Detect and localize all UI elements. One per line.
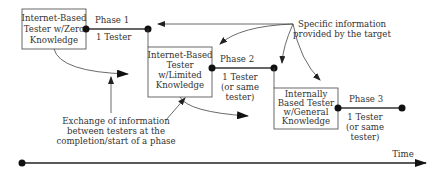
target-info-line2: provided by the target xyxy=(293,29,391,39)
time-axis-label: Time xyxy=(392,149,414,159)
phase-2-testers-3: tester) xyxy=(226,92,255,102)
exchange-line2: between testers at the xyxy=(67,126,165,136)
phase-3-start-dot xyxy=(335,105,342,112)
box2-line2: Tester xyxy=(166,60,194,70)
phase-1-start-dot xyxy=(83,26,90,33)
phase-2-testers-1: 1 Tester xyxy=(222,72,258,82)
exchange-arrow-1-2 xyxy=(54,49,128,74)
phased-testing-diagram: Internet-Based Tester w/Zero Knowledge P… xyxy=(0,0,442,177)
phase-3-testers-1: 1 Tester xyxy=(347,112,383,122)
arrow-to-phase-2 xyxy=(282,24,293,63)
phase-3-label: Phase 3 xyxy=(349,94,383,104)
exchange-line3: completion/start of a phase xyxy=(56,136,175,146)
exchange-line1: Exchange of information xyxy=(62,116,170,126)
box1-line1: Internet-Based xyxy=(22,13,87,23)
tester-box-general-knowledge: Internally Based Tester w/General Knowle… xyxy=(274,88,338,129)
phase-1-timeline: Phase 1 1 Tester xyxy=(83,15,152,42)
phase-3-testers-3: tester) xyxy=(351,132,380,142)
box1-line3: Knowledge xyxy=(30,35,78,45)
box2-line1: Internet-Based xyxy=(148,50,213,60)
phase-2-timeline: Phase 2 1 Tester (or same tester) xyxy=(209,54,278,102)
box2-line3: w/Limited xyxy=(158,70,202,80)
phase-2-label: Phase 2 xyxy=(220,54,254,64)
tester-box-zero-knowledge: Internet-Based Tester w/Zero Knowledge xyxy=(22,9,87,49)
phase-2-testers-2: (or same xyxy=(221,82,259,92)
box2-line4: Knowledge xyxy=(156,80,204,90)
arrow-to-box-2 xyxy=(220,24,293,44)
phase-3-testers-2: (or same xyxy=(346,122,384,132)
time-axis-origin-dot xyxy=(19,160,26,167)
tester-box-limited-knowledge: Internet-Based Tester w/Limited Knowledg… xyxy=(148,47,213,97)
phase-1-testers: 1 Tester xyxy=(96,32,132,42)
time-axis: Time xyxy=(19,149,427,167)
target-info-line1: Specific information xyxy=(298,19,387,29)
phase-3-end-dot xyxy=(399,105,406,112)
box3-line4: Knowledge xyxy=(282,116,330,126)
phase-1-label: Phase 1 xyxy=(95,15,129,25)
phase-3-timeline: Phase 3 1 Tester (or same tester) xyxy=(335,94,406,142)
box1-line2: Tester w/Zero xyxy=(24,24,85,34)
phase-2-start-dot xyxy=(209,65,216,72)
